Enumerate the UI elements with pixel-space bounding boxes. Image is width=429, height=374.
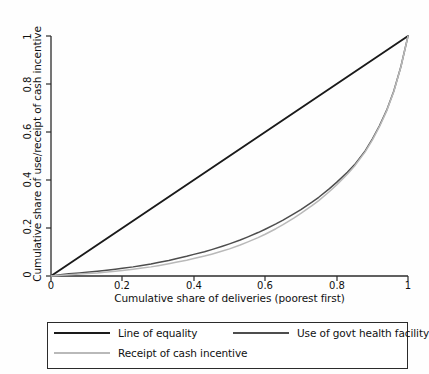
x-axis-ticks [51,276,408,281]
legend-label-use-of-govt-health-facility: Use of govt health facility [297,327,429,339]
lorenz-curve-figure: Cumulative share of use/receipt of cash … [0,0,429,374]
legend-label-receipt-of-cash-incentive: Receipt of cash incentive [118,347,247,359]
legend-item-receipt-of-cash-incentive: Receipt of cash incentive [54,347,247,359]
legend-label-line-of-equality: Line of equality [118,327,197,339]
plot-canvas [0,0,429,374]
data-series-layer [51,36,408,276]
legend-swatch-receipt-of-cash-incentive [54,352,110,354]
legend-item-line-of-equality: Line of equality [54,327,197,339]
series-line-line-of-equality [51,36,408,276]
chart-legend: Line of equality Use of govt health faci… [47,322,408,369]
legend-swatch-line-of-equality [54,332,110,334]
legend-item-use-of-govt-health-facility: Use of govt health facility [233,327,429,339]
y-axis-ticks [46,36,51,276]
legend-swatch-use-of-govt-health-facility [233,332,289,334]
